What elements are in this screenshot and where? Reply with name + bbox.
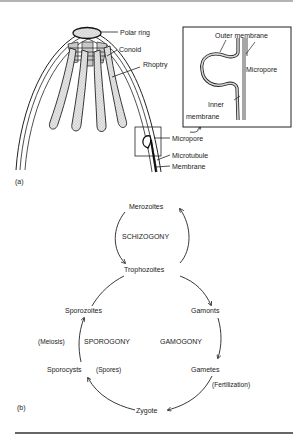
process-sporogony: SPOROGONY bbox=[84, 338, 130, 345]
stage-merozoites: Merozoites bbox=[129, 203, 164, 210]
label-polar-ring: Polar ring bbox=[120, 29, 150, 37]
stage-gamonts: Gamonts bbox=[191, 307, 220, 314]
inset-label-micropore: Micropore bbox=[246, 66, 277, 74]
label-rhoptry: Rhoptry bbox=[143, 61, 168, 69]
inset-label-inner-membrane-2: membrane bbox=[186, 113, 220, 120]
panel-a-label: (a) bbox=[15, 178, 24, 186]
label-membrane: Membrane bbox=[172, 163, 206, 170]
stage-spores: (Spores) bbox=[96, 366, 121, 374]
stage-gametes: Gametes bbox=[191, 366, 220, 373]
process-schizogony: SCHIZOGONY bbox=[122, 233, 169, 240]
stage-zygote: Zygote bbox=[136, 407, 158, 415]
micropore-inset: Outer membrane Micropore Inner membrane bbox=[183, 27, 291, 127]
life-cycle-diagram: Merozoites SCHIZOGONY Trophozoites Gamon… bbox=[38, 203, 250, 415]
annotation-meiosis: (Meiosis) bbox=[38, 338, 65, 346]
stage-sporozoites: Sporozoites bbox=[65, 307, 102, 315]
stage-sporocysts: Sporocysts bbox=[47, 366, 82, 374]
label-microtubule: Microtubule bbox=[172, 152, 208, 159]
polar-ring-shape bbox=[73, 28, 101, 39]
label-micropore: Micropore bbox=[172, 135, 203, 143]
label-conoid: Conoid bbox=[119, 46, 141, 53]
inset-label-inner-membrane-1: Inner bbox=[208, 101, 225, 108]
rhoptry-shapes bbox=[49, 46, 126, 132]
inset-label-outer-membrane: Outer membrane bbox=[215, 32, 268, 39]
annotation-fertilization: (Fertilization) bbox=[212, 381, 250, 389]
apical-complex-drawing: Polar ring Conoid Rhoptry Micropore Micr… bbox=[16, 28, 208, 173]
figure: Polar ring Conoid Rhoptry Micropore Micr… bbox=[0, 0, 308, 439]
process-gamogony: GAMOGONY bbox=[160, 338, 202, 345]
panel-b-label: (b) bbox=[17, 404, 26, 412]
stage-trophozoites: Trophozoites bbox=[124, 266, 165, 274]
